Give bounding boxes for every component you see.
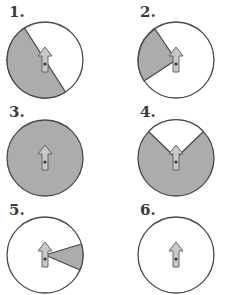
spinner-1: [7, 22, 83, 98]
spinner-6: [138, 217, 214, 293]
spinners-diagram: [0, 0, 229, 295]
spinner-2: [138, 22, 214, 98]
spinner-3: [7, 120, 83, 196]
spinner-5: [7, 217, 83, 293]
spinner-4: [138, 120, 214, 196]
